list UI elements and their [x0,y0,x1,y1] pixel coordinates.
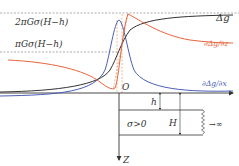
gravity-label: Δg [215,12,230,23]
h-label: h [151,97,157,107]
extent-label: →∞ [209,120,222,129]
upper-level-label: 2πGσ(H−h) [14,17,69,27]
helper-dashed-line [113,14,128,90]
origin-label: O [122,82,130,92]
horizontal-derivative-label: ∂Δg/∂z [204,39,229,48]
gravity-step-diagram: 2πGσ(H−h) πGσ(H−h) Δg ∂Δg/∂z ∂Δg/∂x O Z … [0,0,239,166]
middle-level-label: πGσ(H−h) [14,39,63,49]
z-axis-label: Z [122,155,130,165]
vertical-derivative-label: ∂Δg/∂x [202,79,228,88]
density-label: σ>0 [127,119,147,129]
body-break-edge [202,110,205,134]
H-label: H [168,118,177,128]
